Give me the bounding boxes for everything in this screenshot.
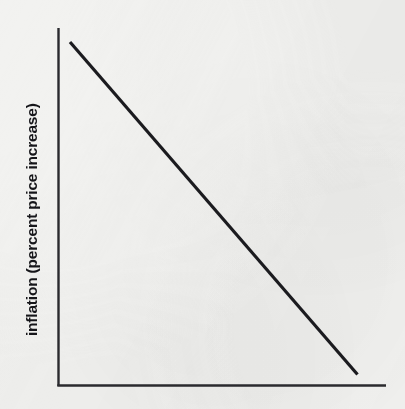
inflation-trend-line — [70, 42, 358, 375]
plot-area — [0, 0, 405, 409]
inflation-chart-figure: inflation (percent price increase) — [0, 0, 405, 409]
y-axis-title: inflation (percent price increase) — [18, 86, 46, 336]
